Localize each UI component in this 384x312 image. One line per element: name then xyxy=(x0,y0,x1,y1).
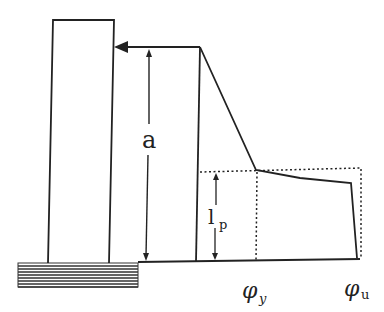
diagram-canvas: a l p φ y φ u xyxy=(0,0,384,312)
yield-curvature-subscript: y xyxy=(258,291,267,306)
ultimate-curvature-label: φ xyxy=(344,276,360,301)
column xyxy=(48,20,114,263)
plastic-hinge-length-subscript: p xyxy=(219,217,227,232)
lateral-force-arrow xyxy=(114,41,200,53)
shear-span-label: a xyxy=(142,126,156,154)
shear-span-dimension xyxy=(143,49,152,261)
ultimate-curvature-subscript: u xyxy=(361,287,369,302)
foundation-hatch xyxy=(18,263,138,287)
yield-curvature-label: φ xyxy=(242,278,258,303)
plastic-hinge-length-label: l xyxy=(208,205,214,229)
